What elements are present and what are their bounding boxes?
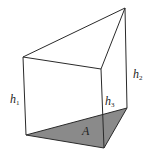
top-edge-left-apex — [23, 8, 125, 57]
top-edge-left-front — [23, 57, 101, 69]
prism-diagram — [0, 0, 146, 156]
base-triangle — [26, 108, 127, 148]
edge-h2 — [125, 8, 127, 108]
prism-figure: h1 h3 h2 A — [0, 0, 146, 156]
label-area: A — [82, 125, 89, 137]
label-h2: h2 — [133, 68, 143, 82]
label-h1: h1 — [10, 93, 20, 107]
edge-h1 — [23, 57, 26, 135]
top-edge-front-apex — [101, 8, 125, 69]
label-h3: h3 — [105, 95, 115, 109]
